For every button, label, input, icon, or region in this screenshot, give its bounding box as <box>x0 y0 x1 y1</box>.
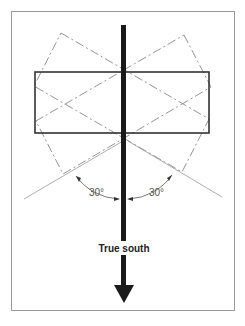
south-arrow-shaft-lower <box>121 255 126 287</box>
south-arrow-shaft-mid <box>121 80 126 241</box>
south-arrow-head <box>114 285 134 303</box>
south-arrow-shaft <box>121 25 126 80</box>
reference-line-right <box>128 141 222 197</box>
orientation-diagram: 30° 30° True south <box>0 0 245 326</box>
angle-label-right: 30° <box>149 187 164 198</box>
arc-arrowhead-left-bottom <box>114 197 120 201</box>
angle-label-left: 30° <box>89 187 104 198</box>
reference-line-left <box>24 141 123 199</box>
true-south-label: True south <box>98 243 149 254</box>
arc-arrowhead-right-bottom <box>127 197 133 201</box>
